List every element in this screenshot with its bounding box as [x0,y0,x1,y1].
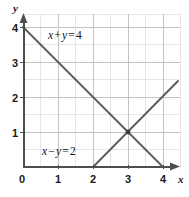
x-tick-label-1: 1 [55,174,61,185]
graph-canvas [0,0,189,197]
y-axis-label: y [13,3,18,14]
eq-top-equals: = [67,29,76,41]
eq-top-value: 4 [76,29,82,41]
equation-label-x-plus-y: x+y=4 [48,30,82,42]
x-tick-label-2: 2 [90,174,96,185]
eq-bottom-value: 2 [70,145,76,157]
equation-label-x-minus-y: x−y=2 [42,146,76,158]
eq-bottom-operator: − [47,145,56,157]
eq-top-operator: + [53,29,62,41]
coordinate-graph-figure: 1 2 3 4 0 1 2 3 4 y x x+y=4 x−y=2 [0,0,189,197]
x-axis-label: x [178,174,184,185]
x-tick-label-4: 4 [160,174,166,185]
x-tick-label-0: 0 [19,174,25,185]
y-tick-label-1: 1 [12,128,18,139]
y-tick-label-3: 3 [12,58,18,69]
eq-bottom-equals: = [61,145,70,157]
y-tick-label-2: 2 [12,93,18,104]
x-tick-label-3: 3 [125,174,131,185]
y-tick-label-4: 4 [12,23,18,34]
intersection-point-marker [126,130,131,135]
